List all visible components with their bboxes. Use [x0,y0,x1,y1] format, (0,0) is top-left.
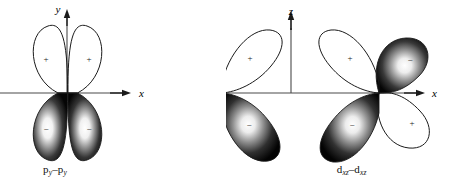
d-far-right-lower-sign: + [409,118,414,128]
p-left-upper-sign: + [43,54,48,64]
p-right-lower-lobe [68,93,102,161]
d-inner-left-lower-sign: − [246,120,251,130]
p-right-upper-lobe [68,25,102,93]
p-orbital-overlap-panel: + + − − y x py–py [0,0,226,185]
d-orbital-svg: − + + − + − − + z x [226,0,453,185]
p-orbital-svg: + + − − y x [0,0,226,185]
d-inner-left-lower-lobe [226,93,280,161]
p-caption-subscript-2: y [64,168,67,177]
d-inner-right-upper-sign: + [347,53,352,63]
d-inner-right-lower-sign: − [349,120,354,130]
d-inner-left-upper-sign: + [247,53,252,63]
p-left-upper-lobe [33,25,67,93]
d-caption-subscript-2: xz [360,168,366,177]
p-left-lower-sign: − [43,124,48,134]
d-far-right-upper-sign: − [407,55,412,65]
y-axis-arrowhead [64,9,70,18]
p-right-lower-sign: − [86,124,91,134]
d-outer-upper-lobes-group [226,38,428,93]
p-orbital-caption: py–py [0,163,168,177]
d-orbital-overlap-panel: − + + − + − − + z x dxz–dxz [226,0,453,185]
d-horizontal-axis-label: x [431,87,437,99]
p-vertical-axis-label: y [55,3,61,15]
p-horizontal-axis-label: x [138,87,144,99]
x-axis-arrowhead [122,90,131,97]
d-x-axis-arrowhead [416,90,425,97]
d-inner-left-upper-lobe [226,30,282,93]
orbital-overlap-figure: + + − − y x py–py [0,0,453,185]
p-right-upper-sign: + [86,54,91,64]
p-left-lower-lobe [33,93,67,161]
d-far-right-lower-lobe [378,93,430,149]
d-orbital-caption: dxz–dxz [238,163,453,177]
d-vertical-axis-label: z [288,5,294,17]
d-far-right-upper-lobe [376,38,428,93]
